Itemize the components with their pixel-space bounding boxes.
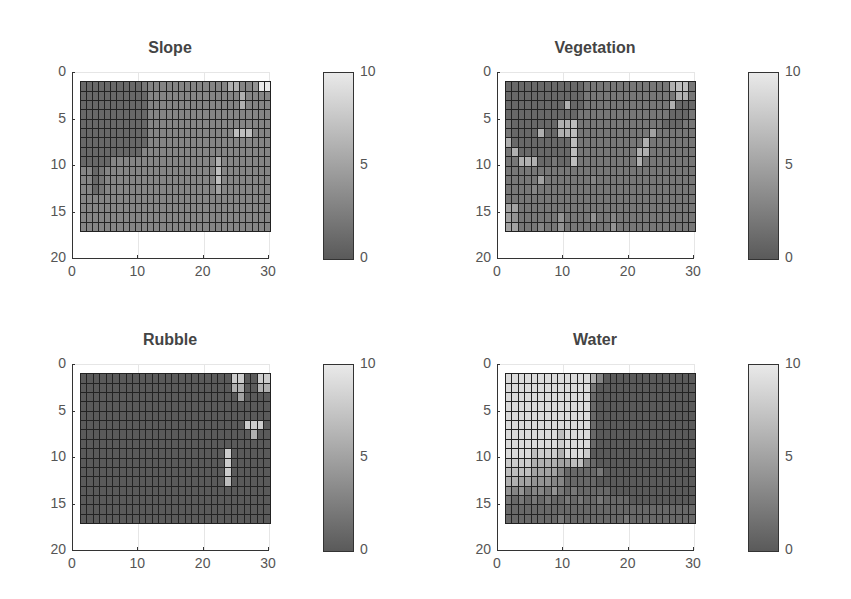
heatmap-cell	[558, 167, 564, 175]
heatmap-cell	[643, 468, 649, 476]
heatmap-cell	[604, 449, 610, 457]
heatmap-cell	[228, 82, 233, 90]
heatmap-cell	[506, 459, 512, 467]
heatmap-cell	[650, 440, 656, 448]
heatmap-cell	[87, 421, 93, 429]
heatmap-cell	[683, 101, 689, 109]
heatmap-cell	[234, 195, 239, 203]
heatmap-cell	[532, 185, 538, 193]
heatmap-cell	[650, 449, 656, 457]
heatmap-cell	[525, 487, 531, 495]
heatmap-cell	[683, 92, 689, 100]
heatmap-cell	[225, 384, 231, 392]
heatmap-cell	[94, 449, 100, 457]
heatmap-cell	[167, 101, 172, 109]
heatmap-cell	[186, 402, 192, 410]
heatmap-cell	[203, 138, 208, 146]
heatmap-cell	[225, 468, 231, 476]
heatmap-cell	[179, 157, 184, 165]
heatmap-cell	[558, 421, 564, 429]
heatmap-cell	[225, 402, 231, 410]
heatmap-cell	[232, 440, 238, 448]
heatmap-cell	[611, 412, 617, 420]
heatmap-cell	[192, 496, 198, 504]
heatmap-cell	[179, 459, 185, 467]
heatmap-cell	[253, 82, 258, 90]
heatmap-cell	[228, 148, 233, 156]
heatmap-cell	[127, 384, 133, 392]
heatmap-cell	[597, 505, 603, 513]
heatmap-cell	[179, 176, 184, 184]
heatmap-cell	[153, 384, 159, 392]
gridline-top	[498, 72, 694, 73]
heatmap-cell	[604, 402, 610, 410]
heatmap-cell	[525, 110, 531, 118]
plot-axes	[72, 72, 269, 259]
heatmap-cell	[246, 185, 251, 193]
heatmap-cell	[100, 374, 106, 382]
heatmap-cell	[525, 515, 531, 523]
heatmap-cell	[683, 440, 689, 448]
heatmap-cell	[538, 468, 544, 476]
heatmap-cell	[538, 213, 544, 221]
heatmap-cell	[538, 440, 544, 448]
heatmap-cell	[166, 393, 172, 401]
heatmap-cell	[179, 477, 185, 485]
heatmap-cell	[146, 487, 152, 495]
heatmap-cell	[637, 138, 643, 146]
x-tick-mark	[137, 255, 138, 258]
heatmap-cell	[258, 515, 264, 523]
x-tick-mark	[203, 547, 204, 550]
heatmap-cell	[519, 157, 525, 165]
heatmap-cell	[689, 412, 695, 420]
heatmap-cell	[136, 129, 141, 137]
heatmap-cell	[657, 421, 663, 429]
heatmap-cell	[545, 138, 551, 146]
heatmap-cell	[191, 167, 196, 175]
heatmap-cell	[218, 468, 224, 476]
heatmap-cell	[538, 120, 544, 128]
heatmap-cell	[133, 393, 139, 401]
plot-axes	[497, 72, 694, 259]
heatmap-cell	[617, 505, 623, 513]
heatmap-cell	[87, 138, 92, 146]
heatmap-cell	[663, 101, 669, 109]
heatmap-cell	[167, 110, 172, 118]
heatmap-cell	[179, 505, 185, 513]
heatmap-cell	[565, 223, 571, 231]
heatmap-cell	[81, 449, 87, 457]
heatmap-cell	[148, 204, 153, 212]
heatmap-cell	[99, 110, 104, 118]
heatmap-cell	[597, 223, 603, 231]
heatmap-cell	[591, 440, 597, 448]
heatmap-cell	[179, 468, 185, 476]
heatmap-cell	[532, 412, 538, 420]
heatmap-cell	[218, 402, 224, 410]
heatmap-cell	[578, 101, 584, 109]
heatmap-cell	[186, 412, 192, 420]
heatmap-cell	[617, 402, 623, 410]
heatmap-cell	[228, 195, 233, 203]
heatmap-cell	[93, 110, 98, 118]
heatmap-cell	[597, 120, 603, 128]
heatmap-cell	[578, 393, 584, 401]
heatmap-cell	[663, 213, 669, 221]
heatmap-cell	[251, 374, 257, 382]
heatmap-cell	[245, 421, 251, 429]
heatmap-cell	[506, 402, 512, 410]
heatmap-cell	[506, 110, 512, 118]
heatmap-cell	[222, 92, 227, 100]
heatmap-cell	[160, 138, 165, 146]
heatmap-cell	[584, 120, 590, 128]
heatmap-cell	[232, 384, 238, 392]
heatmap-cell	[100, 440, 106, 448]
heatmap-cell	[689, 487, 695, 495]
heatmap-cell	[265, 148, 270, 156]
heatmap-cell	[124, 101, 129, 109]
heatmap-cell	[251, 468, 257, 476]
heatmap-cell	[93, 176, 98, 184]
heatmap-cell	[264, 374, 270, 382]
heatmap-cell	[637, 449, 643, 457]
heatmap-cell	[205, 412, 211, 420]
heatmap-cell	[519, 195, 525, 203]
